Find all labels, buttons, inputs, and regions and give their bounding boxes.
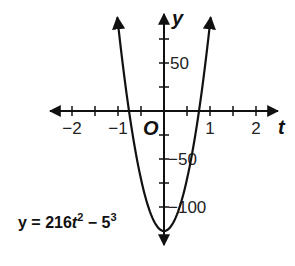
y-axis-label: y bbox=[171, 7, 184, 29]
x-tick-label: −2 bbox=[62, 119, 81, 138]
x-tick-label: −1 bbox=[108, 119, 127, 138]
eq-mid: − 5 bbox=[83, 214, 110, 231]
x-tick-label: 2 bbox=[251, 119, 260, 138]
eq-lhs: y = 216 bbox=[18, 214, 72, 231]
eq-exp2: 3 bbox=[110, 211, 116, 223]
y-tick-label: −100 bbox=[168, 198, 206, 217]
graph: −2−112 50−50−100 t y O y = 216t2 − 53 bbox=[0, 0, 295, 266]
x-axis-label: t bbox=[278, 116, 286, 138]
x-tick-label: 1 bbox=[205, 119, 214, 138]
y-tick-labels: 50−50−100 bbox=[168, 54, 206, 217]
axes bbox=[50, 14, 278, 245]
equation-label: y = 216t2 − 53 bbox=[18, 211, 117, 231]
origin-label: O bbox=[143, 117, 159, 139]
y-tick-label: 50 bbox=[170, 54, 189, 73]
